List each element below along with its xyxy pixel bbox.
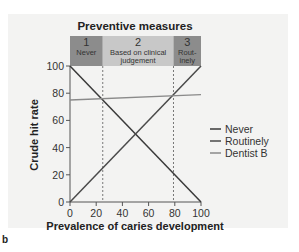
legend-item: Never: [210, 123, 254, 135]
legend-item: Routinely: [210, 135, 270, 147]
zone-label: judgement: [120, 56, 157, 65]
x-axis-label: Prevalence of caries development: [46, 220, 224, 232]
zone-number: 3: [184, 36, 190, 48]
x-tick-label: 20: [90, 207, 102, 219]
chart-title: Preventive measures: [77, 20, 192, 32]
zone-3: 3Rout-inely: [173, 36, 201, 66]
axes: 020406080100020406080100: [46, 60, 209, 219]
x-tick-label: 0: [67, 207, 73, 219]
line-chart: Preventive measures 1Never2Based on clin…: [0, 0, 299, 252]
legend: NeverRoutinelyDentist B: [210, 123, 270, 159]
y-axis-label: Crude hit rate: [28, 99, 40, 171]
x-tick-label: 100: [192, 207, 210, 219]
zone-number: 2: [135, 36, 141, 48]
zone-2: 2Based on clinicaljudgement: [103, 36, 174, 66]
y-tick-label: 60: [52, 114, 64, 126]
x-tick-label: 40: [117, 207, 129, 219]
zone-number: 1: [83, 36, 89, 48]
y-tick-label: 0: [58, 196, 64, 208]
zone-label: Never: [76, 48, 97, 57]
series-lines: [70, 66, 201, 202]
y-tick-label: 40: [52, 142, 64, 154]
series-dentist-b: [70, 95, 201, 100]
zone-1: 1Never: [70, 36, 103, 66]
legend-label: Never: [225, 123, 254, 135]
panel-letter: b: [2, 234, 8, 245]
zone-header: 1Never2Based on clinicaljudgement3Rout-i…: [70, 36, 201, 66]
legend-item: Dentist B: [210, 147, 268, 159]
legend-label: Routinely: [225, 135, 270, 147]
x-tick-label: 80: [169, 207, 181, 219]
zone-label: inely: [180, 56, 196, 65]
y-tick-label: 100: [46, 60, 64, 72]
x-tick-label: 60: [143, 207, 155, 219]
y-tick-label: 20: [52, 169, 64, 181]
legend-label: Dentist B: [225, 147, 268, 159]
y-tick-label: 80: [52, 87, 64, 99]
